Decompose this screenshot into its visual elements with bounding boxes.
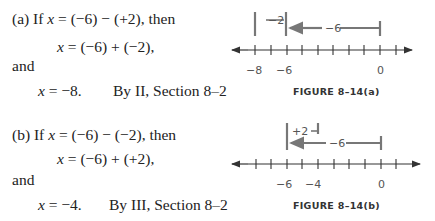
figure-a-tick-label: 0 — [377, 64, 384, 77]
figure-b-long-arrow-label: −6 — [329, 137, 345, 150]
number-line-figures: −2 −6 −8 −6 0 +2 −6 −6 −4 0 — [0, 0, 435, 221]
figure-a: −2 −6 −8 −6 0 — [232, 12, 412, 77]
figure-a-tick-label: −6 — [276, 64, 292, 77]
figure-a-long-arrow-label: −6 — [325, 22, 341, 35]
figure-b-tick-label: 0 — [378, 178, 385, 191]
figure-a-short-arrow-label: −2 — [268, 14, 284, 27]
figure-b-tick-label: −6 — [276, 178, 292, 191]
figure-b-caption: FIGURE 8–14(b) — [293, 200, 380, 211]
figure-b-tick-label: −4 — [305, 178, 321, 191]
figure-b-short-arrow-label: +2 — [292, 125, 308, 138]
figure-b: +2 −6 −6 −4 0 — [232, 123, 420, 191]
figure-a-caption: FIGURE 8–14(a) — [293, 86, 380, 97]
figure-a-tick-label: −8 — [246, 64, 262, 77]
